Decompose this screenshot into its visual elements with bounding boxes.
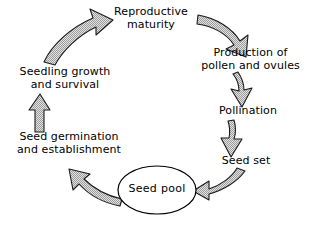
arrow-seedling-to-maturity xyxy=(44,9,113,65)
plant-life-cycle-diagram: Reproductive maturity Production of poll… xyxy=(0,0,311,226)
arrow-pollen-to-pollination xyxy=(231,72,252,107)
node-seedling-growth: Seedling growth and survival xyxy=(7,66,123,91)
node-pollination: Pollination xyxy=(199,105,297,118)
arrow-seed-pool-to-germination xyxy=(69,169,122,206)
node-seed-germination: Seed germination and establishment xyxy=(5,131,133,156)
arrow-pollination-to-seed-set xyxy=(221,120,242,157)
arrow-seed-set-to-seed-pool xyxy=(193,168,245,200)
node-seed-set: Seed set xyxy=(207,155,285,168)
node-reproductive-maturity: Reproductive maturity xyxy=(108,6,194,31)
node-pollen-production: Production of pollen and ovules xyxy=(194,47,307,72)
node-seed-pool: Seed pool xyxy=(118,183,196,196)
arrow-germination-to-seedling xyxy=(29,94,50,132)
